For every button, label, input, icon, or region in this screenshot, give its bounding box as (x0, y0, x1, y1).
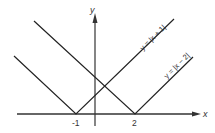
x-tick-label-neg1: -1 (72, 118, 80, 128)
x-axis-label: x (202, 109, 208, 119)
x-tick-label-2: 2 (132, 118, 137, 128)
absolute-value-graph: x y -1 2 y = |x + 1| y = |x − 2| (0, 0, 215, 133)
line-label-abs-x-plus-1: y = |x + 1| (138, 23, 167, 52)
x-axis-arrow-icon (192, 112, 201, 117)
y-axis-label: y (89, 5, 95, 15)
line-label-abs-x-minus-2: y = |x − 2| (162, 51, 191, 80)
